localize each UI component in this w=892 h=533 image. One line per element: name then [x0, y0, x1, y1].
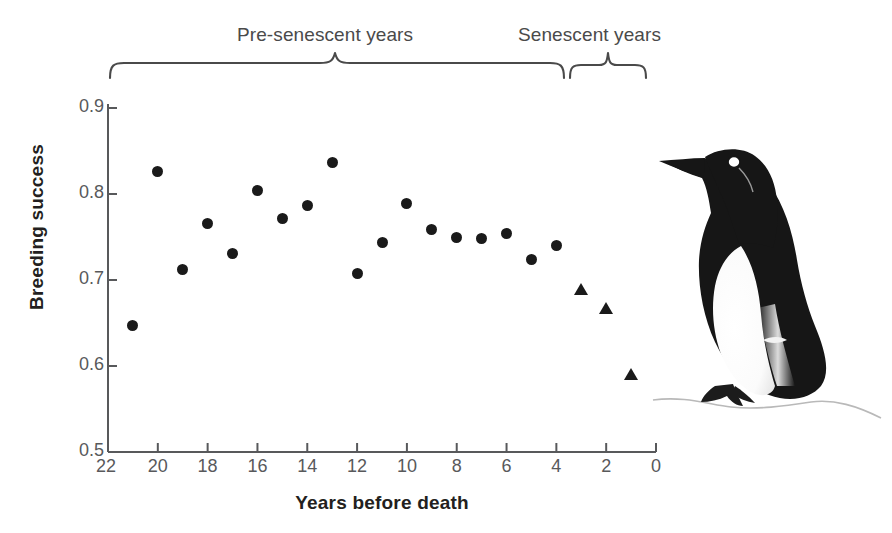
- bird-beak: [659, 158, 705, 178]
- x-tick-label: 14: [287, 456, 327, 477]
- x-tick-label: 0: [636, 456, 676, 477]
- x-tick-label: 2: [586, 456, 626, 477]
- x-tick-label: 22: [86, 456, 126, 477]
- data-point: [574, 283, 588, 295]
- x-tick-label: 18: [188, 456, 228, 477]
- y-tick-label-text: 0.7: [60, 268, 104, 289]
- data-point: [352, 268, 363, 279]
- x-tick-label: 6: [487, 456, 527, 477]
- y-tick-label-text: 0.6: [60, 354, 104, 375]
- x-tick-label: 10: [387, 456, 427, 477]
- x-tick-label: 12: [337, 456, 377, 477]
- data-point: [227, 248, 238, 259]
- data-point: [551, 240, 562, 251]
- data-point: [526, 254, 537, 265]
- x-tick-label: 20: [138, 456, 178, 477]
- y-tick-label-text: 0.9: [60, 96, 104, 117]
- y-tick-label-text: 0.8: [60, 182, 104, 203]
- guillemot-illustration: [645, 118, 890, 448]
- figure-container: Pre-senescent years Senescent years Bree…: [0, 0, 892, 533]
- data-point: [599, 302, 613, 314]
- data-point: [624, 368, 638, 380]
- data-point: [302, 200, 313, 211]
- ground-line: [653, 399, 881, 418]
- data-point: [327, 157, 338, 168]
- bird-eye: [728, 157, 740, 168]
- data-point: [426, 224, 437, 235]
- x-tick-label: 16: [237, 456, 277, 477]
- data-point: [252, 185, 263, 196]
- data-point: [277, 213, 288, 224]
- x-tick-label: 8: [437, 456, 477, 477]
- data-point: [202, 218, 213, 229]
- data-point: [501, 228, 512, 239]
- data-point: [377, 237, 388, 248]
- x-tick-label: 4: [536, 456, 576, 477]
